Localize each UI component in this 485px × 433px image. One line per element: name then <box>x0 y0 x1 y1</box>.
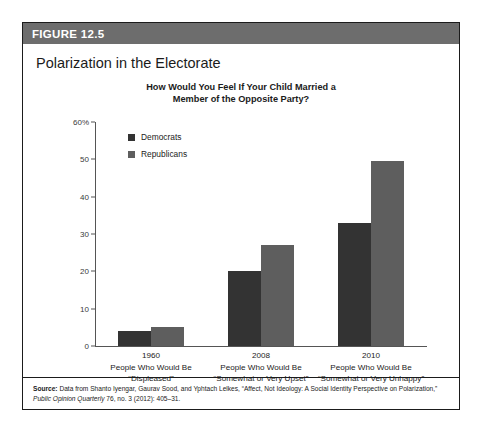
source-journal: Public Opinion Quarterly <box>33 395 104 402</box>
bar-group <box>316 122 426 346</box>
figure-number-label: FIGURE 12.5 <box>32 28 104 40</box>
x-axis-year: 2008 <box>206 350 316 361</box>
bar-group <box>206 122 316 346</box>
y-axis-tick-mark <box>91 122 95 123</box>
bar-republicans-1960 <box>151 327 184 346</box>
chart-title-line-1: How Would You Feel If Your Child Married… <box>83 82 399 94</box>
figure-header: FIGURE 12.5 <box>23 23 459 44</box>
source-note: Source: Data from Shanto Iyengar, Gaurav… <box>23 377 459 409</box>
x-axis-year: 1960 <box>96 350 206 361</box>
bar-democrats-2008 <box>228 271 261 346</box>
x-axis-line <box>95 346 427 347</box>
source-body-end: 76, no. 3 (2012): 405–31. <box>104 395 180 402</box>
y-axis-tick-mark <box>91 234 95 235</box>
x-axis-sublabel: People Who Would Be <box>206 362 316 373</box>
x-axis-sublabel: People Who Would Be <box>316 362 426 373</box>
figure-title: Polarization in the Electorate <box>23 44 459 71</box>
y-axis-tick-mark <box>91 271 95 272</box>
chart-title-line-2: Member of the Opposite Party? <box>83 94 399 106</box>
bar-group <box>96 122 206 346</box>
source-text: Source: Data from Shanto Iyengar, Gaurav… <box>33 384 449 404</box>
chart-title: How Would You Feel If Your Child Married… <box>23 82 459 105</box>
x-axis-year: 2010 <box>316 350 426 361</box>
figure-frame: FIGURE 12.5 Polarization in the Electora… <box>22 22 460 410</box>
y-axis-tick-mark <box>91 196 95 197</box>
chart-plot-wrapper: 0102030405060% Democrats Republicans 196… <box>23 110 459 400</box>
source-body: Data from Shanto Iyengar, Gaurav Sood, a… <box>58 385 438 392</box>
bar-democrats-2010 <box>338 223 371 346</box>
bar-democrats-1960 <box>118 331 151 346</box>
bar-groups <box>96 122 426 346</box>
bar-republicans-2008 <box>261 245 294 346</box>
y-axis-tick-mark <box>91 346 95 347</box>
bar-republicans-2010 <box>371 161 404 346</box>
y-axis-tick-mark <box>91 308 95 309</box>
y-axis-tick-mark <box>91 159 95 160</box>
x-axis-sublabel: People Who Would Be <box>96 362 206 373</box>
source-label: Source: <box>33 385 58 392</box>
